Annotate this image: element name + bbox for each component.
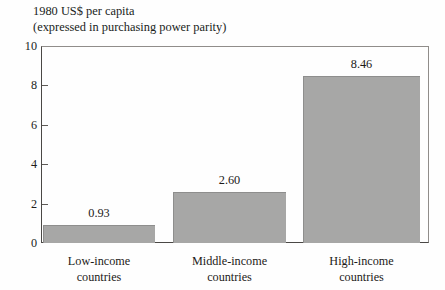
category-label-line: countries bbox=[31, 269, 167, 285]
chart-title-line-2: (expressed in purchasing power parity) bbox=[33, 20, 226, 36]
chart-title: 1980 US$ per capita (expressed in purcha… bbox=[33, 4, 226, 36]
bar-value-label: 8.46 bbox=[303, 57, 420, 72]
bar-value-label: 2.60 bbox=[173, 173, 286, 188]
bar-chart-figure: 1980 US$ per capita (expressed in purcha… bbox=[0, 0, 445, 290]
y-tick-mark bbox=[42, 164, 48, 165]
y-tick-label: 0 bbox=[11, 236, 37, 251]
category-label-line: Low-income bbox=[31, 253, 167, 269]
y-tick-mark bbox=[42, 204, 48, 205]
category-label-line: Middle-income bbox=[161, 253, 298, 269]
category-label-line: countries bbox=[161, 269, 298, 285]
y-tick-label: 6 bbox=[11, 117, 37, 132]
y-tick-label: 4 bbox=[11, 157, 37, 172]
bar bbox=[303, 76, 420, 243]
category-label: High-incomecountries bbox=[291, 253, 432, 285]
y-tick-label: 2 bbox=[11, 196, 37, 211]
category-label-line: High-income bbox=[291, 253, 432, 269]
category-label: Middle-incomecountries bbox=[161, 253, 298, 285]
y-tick-mark bbox=[42, 85, 48, 86]
bar-value-label: 0.93 bbox=[43, 206, 155, 221]
chart-title-line-1: 1980 US$ per capita bbox=[33, 4, 226, 20]
y-tick-label: 8 bbox=[11, 78, 37, 93]
y-tick-mark bbox=[42, 125, 48, 126]
bar bbox=[173, 192, 286, 243]
bar bbox=[43, 225, 155, 243]
category-label: Low-incomecountries bbox=[31, 253, 167, 285]
category-label-line: countries bbox=[291, 269, 432, 285]
y-axis: 0246810 bbox=[4, 0, 37, 290]
y-tick-label: 10 bbox=[11, 39, 37, 54]
